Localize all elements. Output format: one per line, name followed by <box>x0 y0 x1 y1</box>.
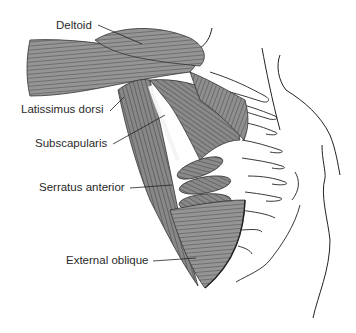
label-external-oblique: External oblique <box>66 255 148 267</box>
label-subscapularis: Subscapularis <box>35 138 107 150</box>
label-latissimus-dorsi: Latissimus dorsi <box>21 104 103 116</box>
label-deltoid: Deltoid <box>56 20 92 32</box>
anatomy-illustration <box>0 0 356 333</box>
external-oblique-muscle <box>170 200 245 288</box>
torso-outline <box>200 28 340 318</box>
label-serratus-anterior: Serratus anterior <box>39 182 125 194</box>
